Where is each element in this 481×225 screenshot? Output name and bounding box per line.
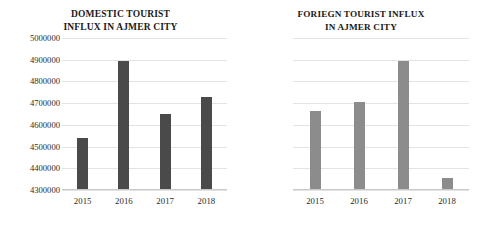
bar-slot bbox=[186, 38, 227, 190]
x-tick-label: 2018 bbox=[425, 192, 469, 212]
plot-canvas-domestic bbox=[62, 38, 227, 190]
x-tick-label: 2017 bbox=[145, 192, 186, 212]
chart-title-domestic-line1: DOMESTIC TOURIST bbox=[71, 9, 170, 19]
chart-title-foreign: FORIEGN TOURIST INFLUX IN AJMER CITY bbox=[241, 0, 481, 33]
y-tick-label: 4400000 bbox=[30, 163, 60, 173]
x-tick-label: 2015 bbox=[293, 192, 337, 212]
bar-slot bbox=[103, 38, 144, 190]
bar-2017 bbox=[160, 114, 171, 190]
x-tick-label: 2016 bbox=[103, 192, 144, 212]
plot-canvas-foreign bbox=[293, 38, 469, 190]
bar-slot bbox=[293, 38, 337, 190]
bar-slot bbox=[145, 38, 186, 190]
bar-2017 bbox=[398, 61, 409, 190]
chart-panel-domestic: DOMESTIC TOURIST INFLUX IN AJMER CITY 43… bbox=[0, 0, 241, 225]
x-tick-label: 2016 bbox=[337, 192, 381, 212]
y-tick-label: 4300000 bbox=[30, 185, 60, 195]
chart-title-domestic-line2: INFLUX IN AJMER CITY bbox=[63, 22, 177, 32]
x-tick-label: 2018 bbox=[186, 192, 227, 212]
chart-panel-foreign: FORIEGN TOURIST INFLUX IN AJMER CITY 010… bbox=[241, 0, 481, 225]
plot-area-foreign: 010000200003000040000500006000070000 201… bbox=[241, 38, 481, 220]
bar-slot bbox=[425, 38, 469, 190]
bar-2018 bbox=[201, 97, 212, 190]
bar-2016 bbox=[118, 61, 129, 190]
bar-2016 bbox=[354, 102, 365, 190]
bar-slot bbox=[337, 38, 381, 190]
y-tick-label: 4600000 bbox=[30, 120, 60, 130]
bar-slot bbox=[62, 38, 103, 190]
plot-area-domestic: 4300000440000045000004600000470000048000… bbox=[0, 38, 241, 220]
x-axis-line-foreign bbox=[293, 189, 469, 190]
bar-2015 bbox=[310, 111, 321, 190]
x-axis-domestic: 2015201620172018 bbox=[62, 192, 227, 212]
bar-2015 bbox=[77, 138, 88, 190]
y-tick-label: 4900000 bbox=[30, 55, 60, 65]
bar-slot bbox=[381, 38, 425, 190]
bar-group-domestic bbox=[62, 38, 227, 190]
y-tick-label: 4500000 bbox=[30, 142, 60, 152]
figure-container: DOMESTIC TOURIST INFLUX IN AJMER CITY 43… bbox=[0, 0, 481, 225]
chart-title-foreign-line1: FORIEGN TOURIST INFLUX bbox=[298, 9, 425, 19]
chart-title-foreign-line2: IN AJMER CITY bbox=[325, 22, 397, 32]
y-tick-label: 5000000 bbox=[30, 33, 60, 43]
y-axis-domestic: 4300000440000045000004600000470000048000… bbox=[4, 38, 60, 190]
y-tick-label: 4700000 bbox=[30, 98, 60, 108]
bar-group-foreign bbox=[293, 38, 469, 190]
gridline bbox=[62, 190, 227, 191]
x-tick-label: 2015 bbox=[62, 192, 103, 212]
chart-title-domestic: DOMESTIC TOURIST INFLUX IN AJMER CITY bbox=[0, 0, 241, 33]
x-axis-foreign: 2015201620172018 bbox=[293, 192, 469, 212]
x-axis-line-domestic bbox=[62, 189, 227, 190]
x-tick-label: 2017 bbox=[381, 192, 425, 212]
gridline bbox=[293, 190, 469, 191]
y-tick-label: 4800000 bbox=[30, 76, 60, 86]
